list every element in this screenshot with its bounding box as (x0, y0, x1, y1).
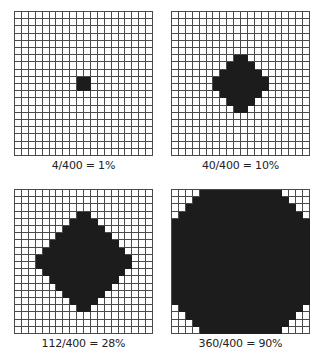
filled-cell (98, 262, 105, 269)
filled-cell (241, 276, 248, 283)
filled-cell (241, 212, 248, 219)
empty-cell (15, 48, 22, 55)
empty-cell (289, 19, 296, 26)
filled-cell (248, 276, 255, 283)
empty-cell (125, 70, 132, 77)
empty-cell (70, 77, 77, 84)
label-28-percent: 112/400 = 28% (14, 337, 153, 350)
filled-cell (248, 77, 255, 84)
empty-cell (119, 84, 126, 91)
filled-cell (227, 291, 234, 298)
label-1-percent: 4/400 = 1% (14, 159, 153, 172)
filled-cell (296, 248, 303, 255)
empty-cell (70, 320, 77, 327)
empty-cell (172, 55, 179, 62)
empty-cell (132, 298, 139, 305)
filled-cell (179, 276, 186, 283)
empty-cell (125, 291, 132, 298)
empty-cell (255, 113, 262, 120)
empty-cell (289, 134, 296, 141)
empty-cell (207, 98, 214, 105)
empty-cell (132, 84, 139, 91)
filled-cell (227, 84, 234, 91)
empty-cell (50, 226, 57, 233)
empty-cell (50, 113, 57, 120)
empty-cell (255, 98, 262, 105)
empty-cell (125, 48, 132, 55)
empty-cell (22, 255, 29, 262)
filled-cell (248, 255, 255, 262)
empty-cell (303, 62, 310, 69)
empty-cell (179, 48, 186, 55)
filled-cell (220, 77, 227, 84)
empty-cell (139, 48, 146, 55)
empty-cell (255, 12, 262, 19)
empty-cell (56, 204, 63, 211)
empty-cell (22, 48, 29, 55)
empty-cell (112, 77, 119, 84)
empty-cell (207, 70, 214, 77)
filled-cell (91, 240, 98, 247)
filled-cell (289, 276, 296, 283)
empty-cell (63, 70, 70, 77)
filled-cell (84, 248, 91, 255)
empty-cell (29, 226, 36, 233)
empty-cell (56, 327, 63, 334)
empty-cell (303, 127, 310, 134)
empty-cell (112, 320, 119, 327)
filled-cell (207, 204, 214, 211)
filled-cell (255, 262, 262, 269)
empty-cell (146, 84, 153, 91)
filled-cell (276, 320, 283, 327)
empty-cell (29, 84, 36, 91)
empty-cell (276, 120, 283, 127)
empty-cell (105, 41, 112, 48)
empty-cell (98, 106, 105, 113)
filled-cell (77, 240, 84, 247)
empty-cell (36, 320, 43, 327)
filled-cell (186, 291, 193, 298)
empty-cell (125, 226, 132, 233)
empty-cell (77, 41, 84, 48)
empty-cell (29, 142, 36, 149)
empty-cell (22, 269, 29, 276)
filled-cell (227, 240, 234, 247)
empty-cell (139, 240, 146, 247)
empty-cell (303, 48, 310, 55)
empty-cell (29, 120, 36, 127)
filled-cell (296, 233, 303, 240)
empty-cell (15, 204, 22, 211)
filled-cell (269, 219, 276, 226)
empty-cell (63, 305, 70, 312)
empty-cell (125, 240, 132, 247)
empty-cell (139, 84, 146, 91)
empty-cell (105, 226, 112, 233)
empty-cell (63, 197, 70, 204)
empty-cell (234, 120, 241, 127)
empty-cell (125, 26, 132, 33)
filled-cell (84, 226, 91, 233)
filled-cell (255, 84, 262, 91)
empty-cell (77, 149, 84, 156)
filled-cell (207, 298, 214, 305)
empty-cell (269, 55, 276, 62)
empty-cell (303, 312, 310, 319)
filled-cell (241, 233, 248, 240)
filled-cell (255, 91, 262, 98)
filled-cell (282, 269, 289, 276)
empty-cell (98, 70, 105, 77)
empty-cell (200, 48, 207, 55)
empty-cell (43, 298, 50, 305)
filled-cell (200, 226, 207, 233)
empty-cell (70, 70, 77, 77)
empty-cell (50, 55, 57, 62)
filled-cell (262, 312, 269, 319)
filled-cell (207, 255, 214, 262)
empty-cell (303, 120, 310, 127)
empty-cell (112, 106, 119, 113)
empty-cell (193, 19, 200, 26)
empty-cell (29, 284, 36, 291)
empty-cell (296, 77, 303, 84)
empty-cell (15, 226, 22, 233)
filled-cell (193, 276, 200, 283)
